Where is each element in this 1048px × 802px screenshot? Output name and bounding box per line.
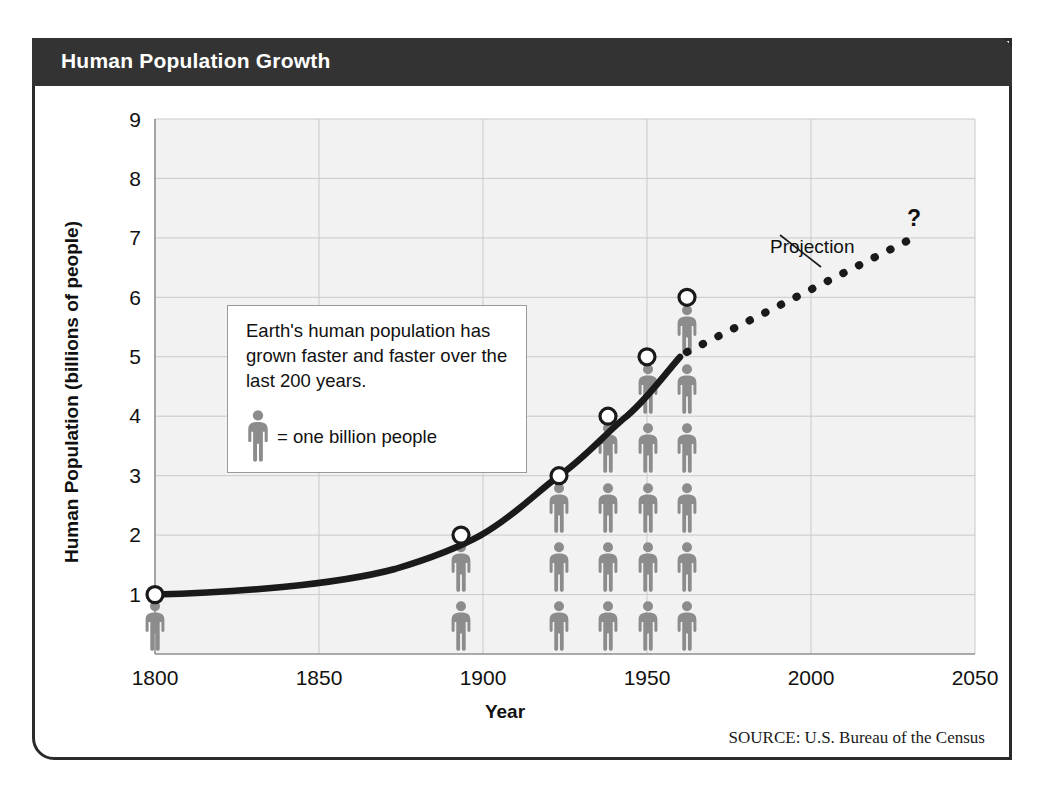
y-tick-5: 5 — [129, 345, 141, 368]
x-tick-2050: 2050 — [952, 666, 999, 689]
x-tick-2000: 2000 — [788, 666, 835, 689]
y-tick-3: 3 — [129, 464, 141, 487]
callout-text: Earth's human population has grown faste… — [246, 318, 518, 393]
y-axis-title: Human Population (billions of people) — [61, 172, 83, 612]
x-axis-title: Year — [35, 701, 975, 723]
y-tick-6: 6 — [129, 286, 141, 309]
person-icon — [246, 410, 270, 464]
y-tick-4: 4 — [129, 404, 141, 427]
marker-1987-5billion — [639, 349, 655, 365]
callout-legend: = one billion people — [246, 410, 437, 464]
callout-legend-label: = one billion people — [277, 426, 437, 448]
marker-1960-3billion — [551, 468, 567, 484]
pictogram-column-1960 — [550, 483, 569, 651]
question-mark-annotation: ? — [907, 205, 921, 232]
y-tick-7: 7 — [129, 226, 141, 249]
marker-1930-2billion — [453, 527, 469, 543]
x-tick-1900: 1900 — [460, 666, 507, 689]
figure-panel: Human Population Growth — [32, 38, 1012, 760]
y-tick-9: 9 — [129, 108, 141, 131]
marker-1800-1billion — [147, 587, 163, 603]
y-tick-1: 1 — [129, 583, 141, 606]
x-tick-1800: 1800 — [132, 666, 179, 689]
x-tick-1850: 1850 — [296, 666, 343, 689]
figure-title: Human Population Growth — [61, 49, 330, 73]
source-credit: SOURCE: U.S. Bureau of the Census — [729, 728, 985, 748]
marker-1975-4billion — [600, 408, 616, 424]
y-tick-2: 2 — [129, 523, 141, 546]
projection-annotation: Projection — [770, 236, 855, 258]
chart-plot-region: 1 2 3 4 5 6 7 8 9 1800 1850 1900 1950 20… — [35, 89, 1009, 760]
figure-title-bar: Human Population Growth — [32, 38, 1012, 86]
marker-1999-6billion — [679, 289, 695, 305]
y-tick-labels: 1 2 3 4 5 6 7 8 9 — [129, 108, 141, 606]
callout-box: Earth's human population has grown faste… — [227, 305, 527, 473]
x-tick-1950: 1950 — [624, 666, 671, 689]
x-tick-labels: 1800 1850 1900 1950 2000 2050 — [132, 666, 999, 689]
y-tick-8: 8 — [129, 167, 141, 190]
